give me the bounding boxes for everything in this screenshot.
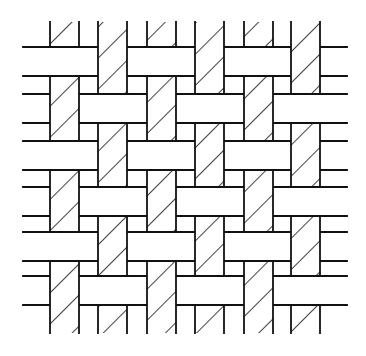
- weft-over-crossing: [194, 95, 225, 122]
- weave-canvas: [0, 0, 366, 356]
- weft-over-crossing: [290, 188, 321, 215]
- weft-over-crossing: [97, 277, 128, 304]
- weft-over-crossing: [243, 233, 274, 260]
- weft-over-crossing: [194, 277, 225, 304]
- weft-over-crossing: [146, 142, 177, 169]
- weft-over-crossing: [290, 95, 321, 122]
- weft-over-crossing: [194, 188, 225, 215]
- weft-over-crossing: [49, 48, 80, 75]
- weft-over-crossing: [243, 48, 274, 75]
- weft-over-crossing: [97, 188, 128, 215]
- weft-over-crossing: [49, 233, 80, 260]
- weft-over-crossing: [243, 142, 274, 169]
- weave-diagram: Plain weave pattern: [0, 0, 366, 356]
- weft-over-crossing: [290, 277, 321, 304]
- weft-over-crossing: [49, 142, 80, 169]
- weft-over-crossing: [146, 233, 177, 260]
- weft-over-crossing: [97, 95, 128, 122]
- weft-over-crossing: [146, 48, 177, 75]
